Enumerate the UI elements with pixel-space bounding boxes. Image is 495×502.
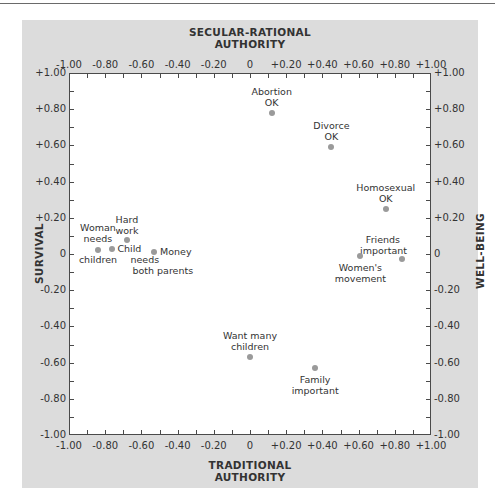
x-tick-label-bottom: -1.00	[49, 440, 89, 451]
y-tick-left	[69, 200, 74, 201]
y-tick-right	[426, 145, 431, 146]
x-tick-label-bottom: +0.40	[302, 440, 342, 451]
data-point-label: Familyimportant	[289, 374, 341, 396]
top-axis-title: SECULAR-RATIONAL AUTHORITY	[150, 26, 350, 50]
x-tick-label-bottom: -0.60	[121, 440, 161, 451]
y-tick-label-left: 0	[26, 248, 66, 259]
y-tick-label-left: +0.40	[26, 176, 66, 187]
x-tick-top	[214, 73, 215, 78]
y-tick-right	[426, 164, 431, 165]
x-tick-top	[304, 73, 305, 78]
y-tick-right	[426, 308, 431, 309]
x-tick-top	[268, 73, 269, 78]
x-tick-top	[141, 73, 142, 78]
y-tick-left	[69, 272, 74, 273]
x-tick-bottom	[87, 430, 88, 435]
x-tick-top	[250, 73, 251, 78]
bottom-axis-title: TRADITIONAL AUTHORITY	[150, 459, 350, 483]
x-tick-bottom	[123, 430, 124, 435]
y-tick-left	[69, 345, 74, 346]
y-tick-label-right: 0	[434, 248, 474, 259]
y-tick-label-right: +0.20	[434, 212, 474, 223]
y-tick-left	[69, 326, 74, 327]
x-tick-top	[413, 73, 414, 78]
y-tick-right	[426, 417, 431, 418]
x-tick-label-bottom: -0.20	[194, 440, 234, 451]
x-tick-label-top: 0	[230, 59, 270, 70]
y-tick-right	[426, 218, 431, 219]
x-tick-bottom	[395, 430, 396, 435]
x-tick-bottom	[232, 430, 233, 435]
y-tick-label-right: -0.60	[434, 357, 474, 368]
y-tick-label-right: +0.40	[434, 176, 474, 187]
y-tick-label-right: +1.00	[434, 67, 474, 78]
x-tick-top	[341, 73, 342, 78]
top-rule	[0, 3, 495, 4]
x-tick-label-bottom: 0	[230, 440, 270, 451]
y-tick-right	[426, 272, 431, 273]
data-point-label: Womanneeds	[74, 222, 122, 244]
top-axis-title-line1: SECULAR-RATIONAL	[150, 26, 350, 38]
x-tick-label-top: -0.20	[194, 59, 234, 70]
y-tick-right	[426, 290, 431, 291]
x-tick-bottom	[413, 430, 414, 435]
x-tick-top	[395, 73, 396, 78]
y-tick-left	[69, 145, 74, 146]
right-axis-title: WELL-BEING	[474, 219, 486, 289]
y-tick-label-right: -0.20	[434, 284, 474, 295]
y-tick-left	[69, 182, 74, 183]
y-tick-right	[426, 326, 431, 327]
x-tick-label-bottom: -0.40	[158, 440, 198, 451]
bottom-axis-title-line1: TRADITIONAL	[150, 459, 350, 471]
x-tick-bottom	[377, 430, 378, 435]
y-tick-label-left: -0.80	[26, 393, 66, 404]
data-point-label: HomosexualOK	[356, 182, 416, 204]
x-tick-bottom	[141, 430, 142, 435]
x-tick-label-bottom: +0.60	[339, 440, 379, 451]
y-tick-right	[426, 236, 431, 237]
x-tick-bottom	[196, 430, 197, 435]
x-tick-bottom	[178, 430, 179, 435]
y-tick-label-left: -1.00	[26, 429, 66, 440]
bottom-axis-title-line2: AUTHORITY	[150, 471, 350, 483]
y-tick-label-left: -0.20	[26, 284, 66, 295]
y-tick-label-right: -0.40	[434, 320, 474, 331]
data-point-label: Want manychildren	[222, 330, 278, 352]
y-tick-label-left: -0.40	[26, 320, 66, 331]
x-tick-bottom	[268, 430, 269, 435]
y-tick-left	[69, 290, 74, 291]
x-tick-bottom	[341, 430, 342, 435]
y-tick-label-right: -1.00	[434, 429, 474, 440]
y-tick-left	[69, 363, 74, 364]
x-tick-label-top: +0.20	[266, 59, 306, 70]
y-tick-right	[426, 109, 431, 110]
x-tick-top	[178, 73, 179, 78]
x-tick-top	[377, 73, 378, 78]
y-tick-right	[426, 254, 431, 255]
x-tick-bottom	[160, 430, 161, 435]
x-tick-top	[196, 73, 197, 78]
x-tick-top	[232, 73, 233, 78]
x-tick-label-top: +0.40	[302, 59, 342, 70]
y-tick-left	[69, 308, 74, 309]
y-tick-label-right: +0.80	[434, 103, 474, 114]
x-tick-label-bottom: +0.20	[266, 440, 306, 451]
y-tick-label-left: +0.20	[26, 212, 66, 223]
y-tick-right	[426, 182, 431, 183]
x-tick-bottom	[304, 430, 305, 435]
x-tick-bottom	[105, 430, 106, 435]
y-tick-right	[426, 345, 431, 346]
x-tick-top	[87, 73, 88, 78]
x-tick-label-top: -0.40	[158, 59, 198, 70]
y-tick-left	[69, 218, 74, 219]
x-tick-label-top: +0.60	[339, 59, 379, 70]
y-tick-right	[426, 399, 431, 400]
x-tick-label-bottom: +1.00	[411, 440, 451, 451]
data-point-label: Women'smovement	[334, 262, 386, 284]
y-tick-label-left: +0.60	[26, 139, 66, 150]
data-point-label: Money	[160, 246, 200, 257]
y-tick-right	[426, 381, 431, 382]
top-axis-title-line2: AUTHORITY	[150, 38, 350, 50]
y-tick-label-left: +0.80	[26, 103, 66, 114]
data-point-label: DivorceOK	[311, 120, 351, 142]
